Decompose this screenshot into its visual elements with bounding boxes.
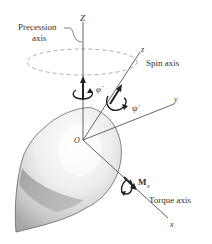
spin-z-label: z: [140, 45, 145, 54]
precession-path-ellipse: [27, 49, 137, 75]
precession-axis-label-2: axis: [32, 33, 47, 43]
precession-leader-line: [64, 28, 82, 42]
moment-label: M: [138, 177, 147, 187]
spin-rate-icon: [107, 84, 128, 110]
precession-axis-label-1: Precession: [18, 22, 57, 32]
Z-axis-label: Z: [80, 13, 86, 23]
psi-dot-label: ψ̇: [132, 103, 141, 113]
x-axis-label: x: [169, 220, 174, 229]
spin-axis-label: Spin axis: [146, 58, 180, 68]
precession-rate-icon: [73, 76, 93, 100]
phi-dot-label: φ̇: [96, 84, 104, 94]
y-axis-label: y: [173, 95, 178, 104]
moment-subscript: x: [146, 183, 150, 189]
gyroscope-diagram: Z Precession axis z Spin axis φ̇ ψ̇ y O …: [0, 0, 212, 244]
torque-moment-icon: [121, 177, 137, 196]
origin-label: O: [74, 136, 80, 145]
spinning-top-body: [15, 108, 121, 232]
diagram-canvas: Z Precession axis z Spin axis φ̇ ψ̇ y O …: [0, 0, 212, 244]
torque-axis-label: Torque axis: [149, 195, 192, 205]
